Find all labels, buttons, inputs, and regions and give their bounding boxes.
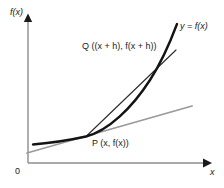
point-p-label: P (x, f(x)) [92, 139, 129, 148]
y-axis-arrowhead [24, 14, 32, 23]
point-q-label: Q ((x + h), f(x + h)) [82, 42, 157, 51]
curve-equation-label: y = f(x) [180, 22, 208, 31]
calculus-secant-tangent-figure: f(x) x 0 y = f(x) Q ((x + h), f(x + h)) … [0, 0, 224, 188]
origin-label: 0 [15, 167, 20, 176]
x-axis-label: x [210, 168, 215, 177]
y-axis-label: f(x) [10, 8, 23, 17]
